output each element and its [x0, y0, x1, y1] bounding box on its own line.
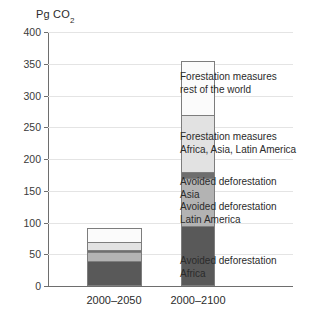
y-axis-title-subscript: 2 — [70, 16, 75, 25]
y-tick-label: 350 — [23, 58, 41, 70]
gridline — [48, 32, 293, 33]
gridline — [48, 64, 293, 65]
bar-segment[interactable] — [87, 252, 142, 260]
y-tick-mark — [44, 159, 48, 160]
y-tick-mark — [44, 286, 48, 287]
bar-1[interactable] — [87, 32, 142, 286]
x-axis-line — [48, 286, 293, 287]
x-axis-label-2: 2000–2100 — [170, 294, 225, 306]
annotation-line: Africa — [180, 268, 277, 281]
annotation-avoided-africa: Avoided deforestationAfrica — [180, 255, 277, 280]
y-tick-label: 50 — [29, 248, 41, 260]
y-tick-label: 100 — [23, 217, 41, 229]
annotation-avoided-latam: Avoided deforestationLatin America — [180, 201, 277, 226]
y-tick-label: 200 — [23, 153, 41, 165]
y-tick-label: 400 — [23, 26, 41, 38]
y-tick-mark — [44, 254, 48, 255]
annotation-line: Africa, Asia, Latin America — [180, 144, 296, 157]
annotation-line: Latin America — [180, 214, 277, 227]
y-tick-label: 150 — [23, 185, 41, 197]
y-tick-label: 0 — [35, 280, 41, 292]
y-tick-mark — [44, 64, 48, 65]
y-axis-title-text: Pg CO — [36, 8, 70, 20]
annotation-line: Avoided deforestation — [180, 255, 277, 268]
annotation-forestation-row: Forestation measuresrest of the world — [180, 71, 277, 96]
annotation-line: Forestation measures — [180, 131, 296, 144]
gridline — [48, 127, 293, 128]
y-tick-mark — [44, 32, 48, 33]
bar-segment[interactable] — [87, 250, 142, 253]
y-tick-mark — [44, 127, 48, 128]
annotation-forestation-aala: Forestation measuresAfrica, Asia, Latin … — [180, 131, 296, 156]
annotation-line: Avoided deforestation — [180, 176, 277, 189]
x-axis-label-1: 2000–2050 — [86, 294, 141, 306]
annotation-line: Avoided deforestation — [180, 201, 277, 214]
bar-segment[interactable] — [87, 228, 142, 242]
y-tick-mark — [44, 96, 48, 97]
y-tick-mark — [44, 191, 48, 192]
annotation-avoided-asia: Avoided deforestationAsia — [180, 176, 277, 201]
y-tick-label: 300 — [23, 90, 41, 102]
gridline — [48, 159, 293, 160]
y-tick-mark — [44, 223, 48, 224]
annotation-line: Asia — [180, 189, 277, 202]
annotation-line: rest of the world — [180, 84, 277, 97]
bar-segment[interactable] — [87, 261, 142, 286]
bar-segment[interactable] — [87, 242, 142, 250]
y-axis-title: Pg CO2 — [36, 8, 75, 23]
y-tick-label: 250 — [23, 121, 41, 133]
chart-figure: Pg CO2 400350300250200150100500 2000–205… — [0, 0, 312, 321]
annotation-line: Forestation measures — [180, 71, 277, 84]
